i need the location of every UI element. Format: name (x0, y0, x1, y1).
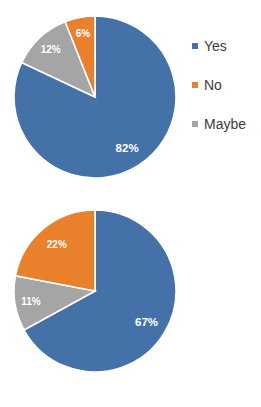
pie-label-yes: 67% (135, 316, 158, 328)
legend-swatch-no-icon (192, 82, 198, 88)
pie-slice-no[interactable] (15, 210, 95, 291)
legend-item-yes[interactable]: Yes (192, 38, 246, 54)
legend-swatch-maybe-icon (192, 121, 198, 127)
pie-label-no: 22% (47, 239, 67, 250)
legend-label-no: No (204, 77, 222, 93)
legend-swatch-yes-icon (192, 43, 198, 49)
legend-label-yes: Yes (204, 38, 227, 54)
pie-svg-top: 82%12%6% (12, 14, 178, 180)
pie-label-maybe: 12% (41, 44, 61, 55)
pie-label-maybe: 11% (21, 296, 41, 307)
legend-label-maybe: Maybe (204, 116, 246, 132)
legend-top: Yes No Maybe (192, 38, 246, 132)
pie-graphic-top: 82%12%6% (12, 14, 178, 180)
pie-svg-bottom: 67%11%22% (12, 208, 178, 374)
pie-chart-bottom: 67%11%22% Yes No Maybe (0, 196, 261, 407)
pie-label-no: 6% (76, 28, 91, 39)
pie-label-yes: 82% (116, 142, 139, 154)
pie-slices-bottom (14, 210, 176, 372)
pie-slices-top (14, 16, 176, 178)
pie-graphic-bottom: 67%11%22% (12, 208, 178, 374)
pie-chart-top: 82%12%6% Yes No Maybe (0, 0, 261, 196)
legend-item-no[interactable]: No (192, 77, 246, 93)
legend-item-maybe[interactable]: Maybe (192, 116, 246, 132)
